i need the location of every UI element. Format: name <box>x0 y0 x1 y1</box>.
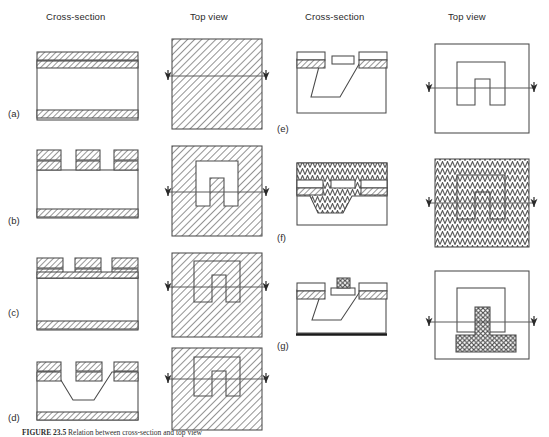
resist-block-left-b <box>37 150 61 170</box>
panel-g-top-view <box>428 271 535 359</box>
mask-left-top-e <box>297 52 325 60</box>
layer-photoresist-a <box>37 52 138 60</box>
panel-e-cross-section <box>297 52 387 113</box>
resist-block-center-d <box>76 362 102 381</box>
panel-c-top-view <box>167 253 267 337</box>
mask-right-f <box>361 180 387 188</box>
bridge-element-e <box>332 56 354 64</box>
mask-right-top-g <box>359 283 387 291</box>
mask-right-g <box>359 291 387 299</box>
panel-a-top-view <box>167 39 267 129</box>
top-view-field-d <box>172 348 262 430</box>
figure-process-flow: Cross-section Top view Cross-section Top… <box>0 0 549 437</box>
panel-e-top-view <box>428 44 535 133</box>
panel-d-cross-section <box>37 362 138 420</box>
resist-block-center-b <box>76 150 100 170</box>
mask-left-top-g <box>297 283 325 291</box>
layer-backside-c <box>37 321 138 329</box>
mask-left-hatch-f <box>297 188 323 195</box>
mask-right-top-e <box>359 52 387 60</box>
layer-backside-d <box>37 412 138 420</box>
mask-left-f <box>297 180 323 188</box>
mask-right-e <box>359 60 387 68</box>
panel-c-cross-section <box>37 258 138 330</box>
top-view-field-b <box>172 146 262 236</box>
panel-d-top-view <box>167 348 267 430</box>
mask-right-hatch-f <box>361 188 387 195</box>
resist-block-right-d <box>114 362 138 381</box>
resist-block-left-d <box>37 362 61 381</box>
panel-f-cross-section <box>297 163 387 225</box>
bridge-element-g <box>331 288 355 295</box>
mask-left-e <box>297 60 325 68</box>
panel-b-top-view <box>167 146 267 236</box>
layer-backside-b <box>37 209 138 217</box>
metal-pad-g <box>337 278 350 288</box>
top-view-field-a <box>172 39 262 129</box>
panel-g-cross-section <box>296 278 387 335</box>
panel-f-top-view <box>428 159 535 247</box>
panel-b-cross-section <box>37 150 138 218</box>
layer-mask-c <box>37 272 138 278</box>
layer-backside-a <box>37 110 138 118</box>
top-view-field-c <box>172 253 262 337</box>
mask-left-g <box>297 291 325 299</box>
resist-block-right-b <box>114 150 138 170</box>
layer-mask-a <box>37 61 138 68</box>
figure-drawing-canvas <box>0 0 549 437</box>
bridge-element-f <box>331 180 355 188</box>
panel-a-cross-section <box>37 52 138 120</box>
